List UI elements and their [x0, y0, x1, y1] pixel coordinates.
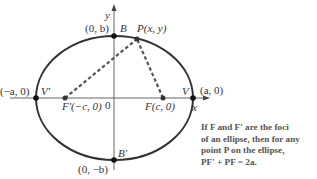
y-axis-label: y [104, 9, 110, 21]
label-f-prime: F'(−c, 0) [61, 100, 102, 113]
caption-line: PF' + PF = 2a. [201, 157, 317, 169]
point-v-prime [33, 95, 39, 101]
label-v-prime-coord: (−a, 0) [0, 85, 30, 98]
label-b: B [120, 22, 127, 34]
x-axis-label: x [191, 101, 197, 113]
label-f: F(c, 0) [144, 100, 175, 113]
focal-line-pf-prime [65, 39, 137, 98]
label-v: V [182, 85, 190, 97]
point-p [135, 37, 140, 42]
point-v [190, 95, 196, 101]
point-b [111, 33, 117, 39]
label-v-prime: V' [41, 85, 51, 97]
caption: If F and F' are the foci of an ellipse, … [201, 122, 317, 168]
caption-line: If F and F' are the foci [201, 122, 317, 134]
x-axis-arrow-icon [203, 96, 210, 101]
label-v-coord: (a, 0) [200, 84, 224, 97]
label-b-prime: B' [118, 147, 128, 159]
y-axis-arrow-icon [112, 4, 117, 11]
origin-label: 0 [105, 99, 111, 111]
label-p: P(x, y) [136, 22, 167, 35]
label-b-coord: (0, b) [85, 22, 109, 35]
point-b-prime [111, 157, 117, 163]
caption-line: of an ellipse, then for any [201, 134, 317, 146]
label-b-prime-coord: (0, −b) [78, 163, 108, 176]
caption-line: point P on the ellipse, [201, 145, 317, 157]
